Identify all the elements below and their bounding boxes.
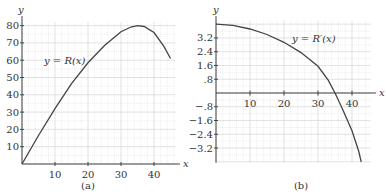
y-tick-label: −.8 [195, 101, 213, 112]
chart-a-curve-label: y = R(x) [43, 55, 85, 66]
x-tick-label: 10 [49, 169, 62, 180]
chart-a-axes [20, 16, 180, 166]
chart-a-grid [22, 22, 175, 164]
y-tick-label: .8 [203, 74, 213, 85]
x-tick-label: 30 [115, 169, 128, 180]
chart-b-curve-label: y = R′(x) [291, 33, 336, 44]
y-tick-label: 20 [6, 124, 19, 135]
y-tick-label: 50 [6, 72, 19, 83]
y-tick-label: 10 [6, 141, 19, 152]
y-tick-label: 1.6 [197, 60, 213, 71]
x-tick-label: 20 [82, 169, 95, 180]
x-tick-label: 10 [244, 98, 257, 109]
y-tick-label: −1.6 [189, 115, 213, 126]
chart-a-tick-labels: 102030401020304050607080 [6, 20, 160, 180]
chart-a-x-axis-label: x [183, 158, 189, 169]
y-tick-label: −3.2 [189, 143, 213, 154]
chart-a-caption: (a) [81, 180, 95, 191]
y-tick-label: 60 [6, 55, 19, 66]
y-tick-label: 40 [6, 89, 19, 100]
chart-b-y-axis-label: y [212, 4, 219, 15]
chart-a-y-axis-label: y [17, 4, 24, 15]
chart-b-caption: (b) [294, 180, 308, 191]
y-tick-label: 2.4 [197, 46, 213, 57]
y-tick-label: 3.2 [197, 32, 213, 43]
figure: 102030401020304050607080 y x y = R(x) (a… [0, 0, 386, 196]
x-tick-label: 30 [312, 98, 325, 109]
x-tick-label: 40 [148, 169, 161, 180]
y-tick-label: −2.4 [189, 129, 213, 140]
chart-a: 102030401020304050607080 y x y = R(x) (a… [6, 4, 189, 191]
chart-b: 102030403.22.41.6.8−.8−1.6−2.4−3.2 y x y… [189, 4, 385, 191]
y-tick-label: 30 [6, 107, 19, 118]
y-tick-label: 80 [6, 20, 19, 31]
chart-b-x-axis-label: x [379, 87, 385, 98]
x-tick-label: 40 [346, 98, 359, 109]
x-tick-label: 20 [278, 98, 291, 109]
y-tick-label: 70 [6, 37, 19, 48]
